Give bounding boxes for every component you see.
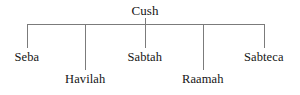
child-drop-line [27,24,28,48]
genealogy-diagram: Cush SebaHavilahSabtahRaamahSabteca [0,0,300,95]
child-node-label: Sabteca [244,50,284,64]
child-node-label: Seba [15,50,40,64]
child-drop-line [203,24,204,70]
root-node-label-cush: Cush [132,4,159,18]
child-node-label: Sabtah [128,50,163,64]
child-node-label: Havilah [65,72,105,86]
child-drop-line [85,24,86,70]
child-drop-line [264,24,265,48]
child-drop-line [145,24,146,48]
child-node-label: Raamah [182,72,224,86]
